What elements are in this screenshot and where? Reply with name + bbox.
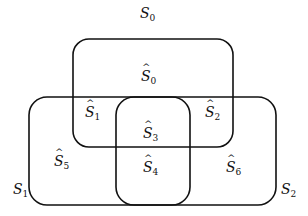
label-S5-hat: S5 [54,154,69,171]
label-S2: S2 [281,182,296,199]
label-S0: S0 [140,6,155,23]
label-S3-hat: S3 [143,126,158,143]
label-S1-hat: S1 [85,105,100,122]
label-S6-hat: S6 [226,160,241,177]
label-S0-hat: S0 [141,69,156,86]
label-S2-hat: S2 [205,105,220,122]
label-S4-hat: S4 [143,160,158,177]
label-S1: S1 [13,182,28,199]
middle-set-box [116,97,190,205]
diagram-canvas [0,0,308,216]
bottom-union-box [29,97,276,205]
